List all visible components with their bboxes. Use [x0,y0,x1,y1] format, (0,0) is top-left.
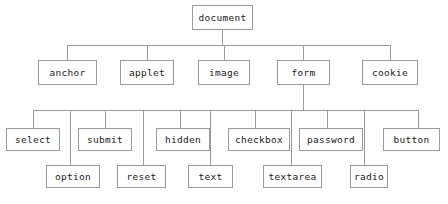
node-password[interactable]: password [299,128,363,151]
edge-drop-checkbox [255,110,256,128]
edge-drop-text [210,110,211,165]
node-radio[interactable]: radio [350,165,388,188]
node-reset[interactable]: reset [117,165,166,188]
node-option[interactable]: option [46,165,100,188]
dom-tree-diagram: document anchor applet image form cookie… [0,0,448,204]
edge-drop-button [418,110,419,128]
node-hidden[interactable]: hidden [156,128,210,151]
node-checkbox[interactable]: checkbox [228,128,290,151]
edge-drop-option [70,110,71,165]
figure-caption [0,199,448,204]
edge-drop-cookie [390,45,391,60]
edge-bus-level3 [33,110,418,111]
edge-drop-form [303,45,304,60]
edge-drop-textarea [291,110,292,165]
edge-drop-reset [143,110,144,165]
node-document[interactable]: document [192,5,253,30]
edge-drop-submit [105,110,106,128]
node-anchor[interactable]: anchor [38,60,97,85]
edge-drop-radio [364,110,365,165]
edge-drop-anchor [67,45,68,60]
node-cookie[interactable]: cookie [362,60,418,85]
edge-drop-password [327,110,328,128]
node-submit[interactable]: submit [78,128,132,151]
node-textarea[interactable]: textarea [263,165,322,188]
edge-bus-level2 [67,45,390,46]
node-select[interactable]: select [6,128,60,151]
node-form[interactable]: form [277,60,330,85]
edge-drop-hidden [180,110,181,128]
edge-form-stem [303,85,304,110]
edge-drop-image [224,45,225,60]
node-applet[interactable]: applet [120,60,174,85]
edge-drop-applet [147,45,148,60]
node-image[interactable]: image [198,60,250,85]
node-button[interactable]: button [383,128,440,151]
edge-drop-select [33,110,34,128]
node-text[interactable]: text [188,165,233,188]
edge-root-stem [222,30,223,45]
